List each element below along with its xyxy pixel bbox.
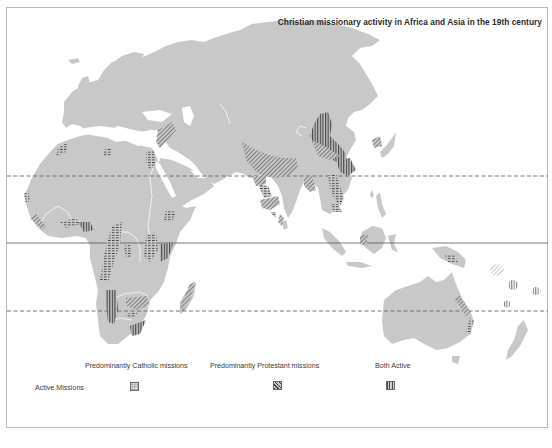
- mission-areas-pacific: [490, 264, 541, 308]
- pacific-island-both-3: [504, 301, 511, 308]
- pacific-island-both-1: [508, 280, 518, 290]
- legend-label-both: Both Active: [375, 362, 411, 370]
- tasmania-landmass: [452, 356, 460, 364]
- legend-label-catholic: Predominantly Catholic missions: [85, 362, 188, 370]
- both-active-pattern-swatch-icon: [386, 381, 395, 390]
- protestant-pattern-swatch-icon: [273, 381, 282, 390]
- legend-label-protestant: Predominantly Protestant missions: [210, 362, 319, 370]
- sumatra-landmass: [322, 228, 346, 256]
- iceland-landmass: [68, 58, 80, 64]
- new-zealand-landmass: [506, 320, 528, 360]
- legend-row-label: Active Missions: [35, 384, 84, 392]
- catholic-pattern-swatch-icon: [130, 382, 139, 391]
- taiwan-landmass: [370, 190, 374, 198]
- australia-landmass: [382, 272, 474, 350]
- java-landmass: [346, 262, 372, 268]
- pacific-island-protestant: [490, 264, 504, 276]
- map-title: Christian missionary activity in Africa …: [278, 17, 542, 27]
- pacific-island-both-2: [532, 287, 541, 295]
- japan-landmass: [380, 132, 396, 158]
- philippines-landmass: [376, 192, 386, 218]
